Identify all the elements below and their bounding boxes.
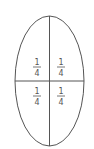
fraction-ellipse-diagram: 1 4 1 4 1 4 1 4 <box>0 0 94 149</box>
quadrant-bottom-right: 1 4 <box>57 87 65 107</box>
numerator: 1 <box>34 58 39 67</box>
denominator: 4 <box>34 98 39 107</box>
denominator: 4 <box>34 69 39 78</box>
numerator: 1 <box>58 58 63 67</box>
denominator: 4 <box>58 98 63 107</box>
quadrant-top-right: 1 4 <box>57 58 65 78</box>
quadrant-bottom-left: 1 4 <box>33 87 41 107</box>
quadrant-top-left: 1 4 <box>33 58 41 78</box>
numerator: 1 <box>34 87 39 96</box>
numerator: 1 <box>58 87 63 96</box>
denominator: 4 <box>58 69 63 78</box>
